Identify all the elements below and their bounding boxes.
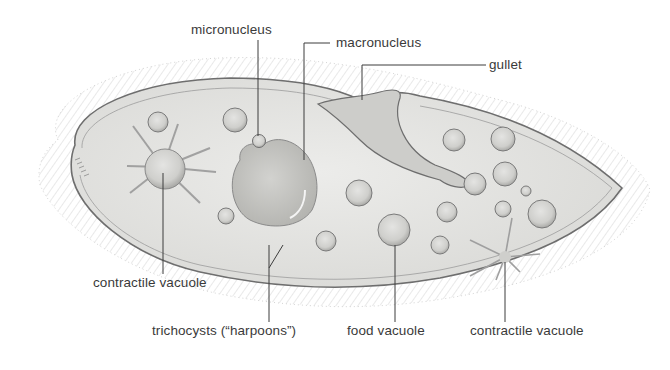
label-trichocysts: trichocysts (“harpoons”) [152, 324, 296, 338]
label-gullet: gullet [489, 58, 522, 72]
forming-food-vacuole [464, 173, 486, 195]
label-micronucleus: micronucleus [191, 23, 272, 37]
label-contractile-vacuole-right: contractile vacuole [470, 324, 584, 338]
micronucleus [253, 135, 266, 148]
paramecium-diagram: micronucleus macronucleus gullet contrac… [0, 0, 670, 370]
label-food-vacuole: food vacuole [347, 324, 425, 338]
label-macronucleus: macronucleus [336, 36, 421, 50]
paramecium-illustration [0, 0, 670, 370]
label-contractile-vacuole-left: contractile vacuole [93, 276, 207, 290]
